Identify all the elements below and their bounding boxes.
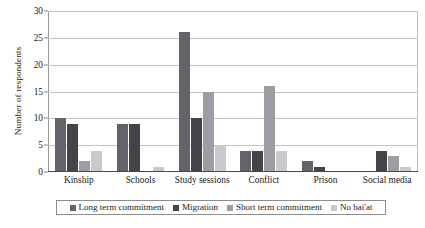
bar-group	[110, 11, 172, 172]
bar	[276, 151, 287, 172]
x-axis-label: Conflict	[233, 175, 295, 185]
bar	[252, 151, 263, 172]
bar-group	[295, 11, 357, 172]
bar	[129, 124, 140, 172]
legend-swatch-icon	[331, 205, 337, 211]
bar-group	[171, 11, 233, 172]
y-axis-title: Number of respondents	[13, 16, 23, 166]
plot-area: 051015202530	[48, 11, 418, 172]
chart-legend: Long term commitmentMigrationShort term …	[56, 200, 386, 215]
y-tick-label: 25	[34, 33, 43, 43]
bar	[203, 92, 214, 173]
bar	[67, 124, 78, 172]
legend-label: No bai'at	[340, 203, 372, 212]
y-tick-label: 0	[38, 167, 43, 177]
bar	[55, 118, 66, 172]
legend-label: Migration	[182, 203, 218, 212]
grouped-bar-chart: Number of respondents 051015202530 Kinsh…	[0, 0, 425, 228]
bar	[191, 118, 202, 172]
legend-item[interactable]: Migration	[173, 203, 218, 212]
legend-label: Short term commitment	[236, 203, 322, 212]
legend-label: Long term commitment	[79, 203, 164, 212]
legend-swatch-icon	[173, 205, 179, 211]
bar	[240, 151, 251, 172]
x-axis-label: Prison	[295, 175, 357, 185]
bar	[179, 32, 190, 172]
y-tick-label: 15	[34, 87, 43, 97]
y-tick-label: 20	[34, 60, 43, 70]
x-axis-label: Social media	[356, 175, 418, 185]
legend-swatch-icon	[227, 205, 233, 211]
y-tick-label: 5	[38, 140, 43, 150]
bar	[117, 124, 128, 172]
bar	[215, 145, 226, 172]
bar	[91, 151, 102, 172]
bar-group	[356, 11, 418, 172]
bar-group	[233, 11, 295, 172]
legend-item[interactable]: Short term commitment	[227, 203, 322, 212]
x-axis-line	[48, 171, 418, 172]
x-axis-label: Study sessions	[171, 175, 233, 185]
bar	[264, 86, 275, 172]
legend-item[interactable]: Long term commitment	[70, 203, 164, 212]
x-axis-labels: KinshipSchoolsStudy sessionsConflictPris…	[48, 175, 418, 185]
bar-groups	[48, 11, 418, 172]
bar	[388, 156, 399, 172]
y-tick-label: 10	[34, 113, 43, 123]
bar	[376, 151, 387, 172]
x-axis-label: Kinship	[48, 175, 110, 185]
bar-group	[48, 11, 110, 172]
y-tick-label: 30	[34, 6, 43, 16]
x-axis-label: Schools	[110, 175, 172, 185]
legend-item[interactable]: No bai'at	[331, 203, 372, 212]
legend-swatch-icon	[70, 205, 76, 211]
